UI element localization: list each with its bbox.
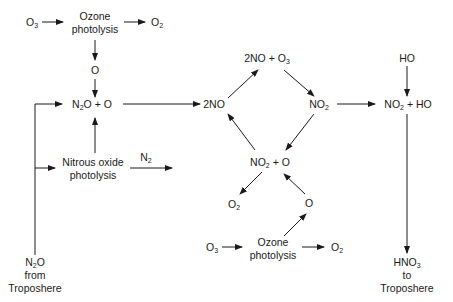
hno-text: HNO: [393, 256, 416, 268]
arrow-no2-to-no2-o: [286, 114, 314, 150]
label-hno3-to-troposphere: HNO3toTroposhere: [380, 256, 433, 295]
photolysis-text: photolysis: [250, 249, 297, 262]
hno3-subscript: 3: [417, 262, 421, 269]
ozone-text: Ozone: [250, 236, 297, 249]
label-o3-top: O3: [26, 16, 38, 28]
label-n2o-plus-o: N2O + O: [72, 98, 112, 110]
o2-text: O: [151, 16, 159, 28]
to-text: to: [380, 269, 433, 282]
no-text: NO: [309, 98, 325, 110]
arrow-o-to-no2-o: [284, 174, 305, 194]
arrow-no2-o-to-2no: [228, 114, 255, 150]
label-ho: HO: [399, 52, 415, 64]
o-text: O: [37, 256, 45, 268]
o3-subscript: 3: [34, 22, 38, 29]
photolysis-text: photolysis: [72, 23, 119, 36]
n-text: N: [140, 151, 148, 163]
no-text: NO: [384, 98, 400, 110]
nitrous-oxide-text: Nitrous oxide: [62, 156, 123, 169]
label-o-mid: O: [305, 197, 313, 209]
o2-text: O: [331, 241, 339, 253]
troposphere-text: Troposhere: [380, 282, 433, 295]
o2-subscript: 2: [339, 247, 343, 254]
ozone-text: Ozone: [72, 10, 119, 23]
photolysis-text: photolysis: [62, 169, 123, 182]
label-o2-bottom: O2: [331, 241, 343, 253]
o2-text: O: [228, 198, 236, 210]
arrow-no2-o-to-o2: [240, 172, 262, 194]
label-no2: NO2: [309, 98, 329, 110]
label-2no: 2NO: [203, 98, 225, 110]
o3-subscript: 3: [214, 247, 218, 254]
arrow-2no-o3-to-no2: [284, 70, 314, 96]
label-n2o-from-troposphere: N2OfromTroposhere: [8, 256, 61, 295]
line-n2o-from-troposphere: [35, 104, 62, 255]
no2-subscript: 2: [325, 104, 329, 111]
label-ozone-photolysis-top: Ozonephotolysis: [72, 10, 119, 36]
arrow-ozone-photolysis-to-o-mid: [284, 214, 306, 236]
label-no2-plus-ho: NO2 + HO: [384, 98, 431, 110]
o3-subscript: 3: [286, 58, 290, 65]
label-no2-plus-o: NO2 + O: [250, 156, 290, 168]
label-n2: N2: [140, 151, 152, 163]
label-o2-top: O2: [151, 16, 163, 28]
label-2no-plus-o3: 2NO + O3: [244, 52, 290, 64]
arrow-2no-to-2no-o3: [228, 70, 258, 98]
o2-subscript: 2: [236, 204, 240, 211]
plus-ho-text: + HO: [404, 98, 432, 110]
label-ozone-photolysis-bottom: Ozonephotolysis: [250, 236, 297, 262]
o-plus-o-text: O + O: [84, 98, 112, 110]
n2-subscript: 2: [148, 157, 152, 164]
label-nitrous-oxide-photolysis: Nitrous oxidephotolysis: [62, 156, 123, 182]
o2-subscript: 2: [159, 22, 163, 29]
plus-o-text: + O: [270, 156, 290, 168]
n-text: N: [72, 98, 80, 110]
no-text: NO: [250, 156, 266, 168]
label-o2-mid: O2: [228, 198, 240, 210]
label-o3-bottom: O3: [206, 241, 218, 253]
o3-text: O: [206, 241, 214, 253]
o3-text: O: [26, 16, 34, 28]
troposphere-text: Troposhere: [8, 282, 61, 295]
from-text: from: [8, 269, 61, 282]
label-o-top: O: [91, 64, 99, 76]
2no-plus-o-text: 2NO + O: [244, 52, 286, 64]
